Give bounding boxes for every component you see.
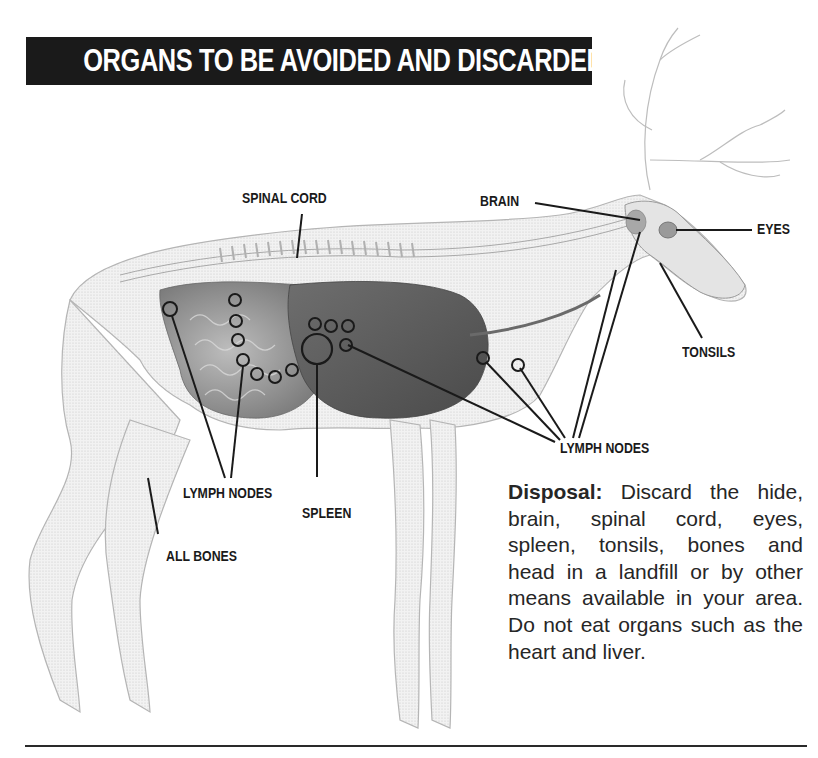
disposal-text: Discard the hide, brain, spinal cord, ey… (508, 480, 803, 663)
label-tonsils: TONSILS (682, 344, 745, 360)
label-spinal-cord: SPINAL CORD (242, 190, 342, 206)
label-brain: BRAIN (480, 193, 526, 209)
label-spleen: SPLEEN (302, 505, 360, 521)
label-lymph-nodes-left: LYMPH NODES (183, 485, 288, 501)
bottom-divider (25, 745, 807, 747)
eye-socket (659, 222, 677, 238)
label-eyes: EYES (757, 221, 796, 237)
brain-case (626, 210, 646, 234)
skull (625, 201, 745, 298)
disposal-heading: Disposal: (508, 480, 603, 503)
disposal-note: Disposal: Discard the hide, brain, spina… (508, 479, 803, 665)
antlers (624, 28, 790, 190)
label-all-bones: ALL BONES (166, 548, 250, 564)
label-lymph-nodes-right: LYMPH NODES (560, 440, 665, 456)
